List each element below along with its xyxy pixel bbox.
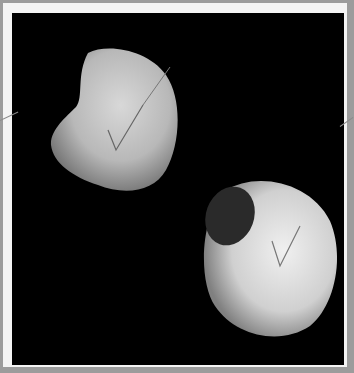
photo-background (12, 13, 344, 365)
photo-frame (3, 3, 347, 367)
kidney-pebble (48, 45, 180, 200)
hollow-pebble (200, 176, 340, 341)
